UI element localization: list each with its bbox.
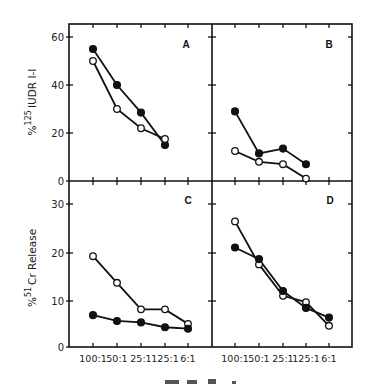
series-line-d-filled [235, 248, 329, 318]
ytick-bottom-20: 20 [51, 248, 64, 259]
xtick-label: 6:1 [180, 353, 195, 364]
xtick-label: 100:1 [221, 353, 248, 364]
xtick-label: 50:1 [248, 353, 269, 364]
series-line-d-open [235, 221, 329, 325]
filled-circle-marker [232, 108, 239, 115]
open-circle-marker [138, 125, 145, 132]
ylabel-main: Cr Release [26, 229, 38, 285]
open-circle-marker [280, 161, 287, 168]
svg-text:%125IUDR I-I: %125IUDR I-I [24, 69, 38, 136]
bottom-y-tick-labels: 0 10 20 30 [51, 199, 64, 353]
open-circle-marker [326, 323, 333, 330]
filled-circle-marker [280, 145, 287, 152]
filled-circle-marker [90, 312, 97, 319]
xtick-label: 25:1 [272, 353, 293, 364]
panel-frames [69, 24, 352, 347]
open-circle-marker [162, 306, 169, 313]
filled-circle-marker [256, 256, 263, 263]
filled-circle-marker [185, 325, 192, 332]
filled-circle-marker [138, 109, 145, 116]
filled-circle-marker [90, 46, 97, 53]
filled-circle-marker [114, 82, 121, 89]
open-circle-marker [114, 279, 121, 286]
xtick-label: 125:1 [292, 353, 319, 364]
x-tick-labels-left: 100:1 50:1 25:1 125:1 6:1 [79, 353, 195, 364]
open-circle-marker [90, 58, 97, 65]
filled-circle-marker [326, 314, 333, 321]
ytick-top-60: 60 [51, 32, 64, 43]
ylabel-main: IUDR I-I [26, 69, 38, 108]
series-line-b-open [235, 151, 306, 179]
filled-circle-marker [232, 244, 239, 251]
ylabel-superscript: 125 [24, 110, 33, 125]
open-circle-marker [162, 136, 169, 143]
ylabel-superscript: 51 [24, 287, 33, 297]
xtick-label: 6:1 [321, 353, 336, 364]
panel-label-d: D [326, 195, 333, 206]
open-circle-marker [232, 148, 239, 155]
xtick-label: 25:1 [130, 353, 151, 364]
ytick-top-40: 40 [51, 80, 64, 91]
ylabel-percent: % [26, 297, 38, 307]
filled-circle-marker [138, 319, 145, 326]
ytick-top-20: 20 [51, 128, 64, 139]
panel-label-c: C [184, 195, 191, 206]
filled-circle-marker [303, 161, 310, 168]
open-circle-marker [256, 159, 263, 166]
top-y-axis-label: %125IUDR I-I [24, 69, 38, 136]
ytick-top-0: 0 [58, 176, 64, 187]
filled-circle-marker [303, 305, 310, 312]
open-circle-marker [90, 253, 97, 260]
filled-circle-marker [114, 318, 121, 325]
x-tick-labels-right: 100:1 50:1 25:1 125:1 6:1 [221, 353, 336, 364]
open-circle-marker [114, 106, 121, 113]
figure: 0 20 40 60 0 10 20 30 100:1 50:1 25:1 12… [0, 0, 372, 384]
xtick-label: 125:1 [151, 353, 178, 364]
bottom-y-axis-label: %51Cr Release [24, 229, 38, 307]
series-line-c-open [93, 256, 188, 324]
filled-circle-marker [256, 150, 263, 157]
ytick-bottom-10: 10 [51, 296, 64, 307]
open-circle-marker [232, 218, 239, 225]
ytick-bottom-30: 30 [51, 199, 64, 210]
xtick-label: 50:1 [106, 353, 127, 364]
panel-label-b: B [325, 39, 332, 50]
svg-text:%51Cr Release: %51Cr Release [24, 229, 38, 307]
series-line-a-filled [93, 49, 165, 145]
filled-circle-marker [280, 288, 287, 295]
ytick-bottom-0: 0 [58, 342, 64, 353]
cut-off-x-axis-title [165, 379, 236, 384]
top-y-tick-labels: 0 20 40 60 [51, 32, 64, 187]
xtick-label: 100:1 [79, 353, 106, 364]
ylabel-percent: % [26, 125, 38, 135]
open-circle-marker [303, 175, 310, 182]
open-circle-marker [138, 306, 145, 313]
filled-circle-marker [162, 324, 169, 331]
data-series [90, 46, 333, 333]
panel-label-a: A [182, 39, 189, 50]
